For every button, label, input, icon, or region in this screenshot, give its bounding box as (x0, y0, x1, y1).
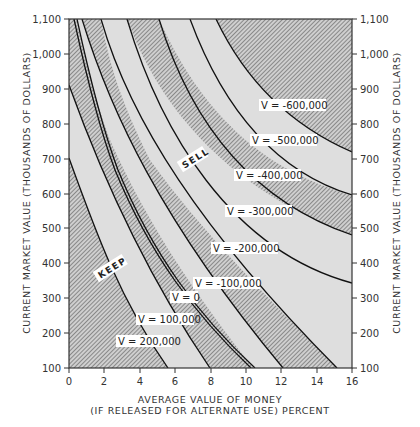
y-tick-labels-right: 100 200 300 400 500 600 700 800 900 1,00… (360, 14, 389, 374)
svg-text:900: 900 (42, 84, 61, 95)
svg-text:700: 700 (360, 154, 379, 165)
svg-text:100: 100 (360, 363, 379, 374)
x-axis-title: AVERAGE VALUE OF MONEY (138, 394, 282, 405)
svg-text:800: 800 (360, 119, 379, 130)
svg-text:0: 0 (66, 376, 72, 387)
svg-text:200: 200 (360, 328, 379, 339)
svg-text:14: 14 (311, 376, 324, 387)
svg-text:500: 500 (360, 223, 379, 234)
svg-text:300: 300 (360, 293, 379, 304)
y-tick-labels-left: 100 200 300 400 500 600 700 800 900 1,00… (32, 14, 61, 374)
label-v-0: V = 0 (172, 292, 200, 303)
y-axis-title-right: CURRENT MARKET VALUE (THOUSANDS OF DOLLA… (391, 52, 402, 334)
svg-text:4: 4 (137, 376, 143, 387)
svg-text:300: 300 (42, 293, 61, 304)
svg-text:400: 400 (42, 258, 61, 269)
svg-text:1,100: 1,100 (32, 14, 61, 25)
svg-text:16: 16 (346, 376, 359, 387)
svg-text:2: 2 (101, 376, 107, 387)
svg-text:800: 800 (42, 119, 61, 130)
label-v-m200k: V = -200,000 (213, 243, 280, 254)
svg-text:600: 600 (360, 189, 379, 200)
x-ticks (69, 368, 352, 373)
label-v-m300k: V = -300,000 (227, 206, 294, 217)
svg-text:10: 10 (240, 376, 253, 387)
svg-text:400: 400 (360, 258, 379, 269)
svg-text:12: 12 (275, 376, 288, 387)
label-v-100k: V = 100,000 (138, 314, 201, 325)
y-axis-title-left: CURRENT MARKET VALUE (THOUSANDS OF DOLLA… (21, 52, 32, 334)
label-v-m500k: V = -500,000 (252, 135, 319, 146)
svg-text:1,100: 1,100 (360, 14, 389, 25)
svg-text:1,000: 1,000 (32, 49, 61, 60)
label-v-m100k: V = -100,000 (195, 278, 262, 289)
x-axis-title-line2: (IF RELEASED FOR ALTERNATE USE) PERCENT (90, 405, 329, 416)
svg-text:8: 8 (208, 376, 214, 387)
contour-chart: 100 200 300 400 500 600 700 800 900 1,00… (0, 0, 420, 427)
svg-text:900: 900 (360, 84, 379, 95)
svg-text:100: 100 (42, 363, 61, 374)
svg-text:700: 700 (42, 154, 61, 165)
label-v-m600k: V = -600,000 (261, 100, 328, 111)
svg-text:200: 200 (42, 328, 61, 339)
svg-text:1,000: 1,000 (360, 49, 389, 60)
svg-text:600: 600 (42, 189, 61, 200)
x-tick-labels: 0 2 4 6 8 10 12 14 16 (66, 376, 359, 387)
svg-text:6: 6 (172, 376, 178, 387)
svg-text:500: 500 (42, 223, 61, 234)
label-v-m400k: V = -400,000 (236, 170, 303, 181)
label-v-200k: V = 200,000 (118, 336, 181, 347)
